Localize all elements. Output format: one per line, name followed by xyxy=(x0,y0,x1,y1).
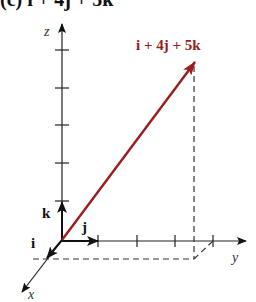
vector-arrow xyxy=(62,62,195,240)
unit-label-j: j xyxy=(81,219,87,235)
y-axis-label: y xyxy=(230,250,239,265)
x-axis-label: x xyxy=(27,287,35,302)
unit-label-k: k xyxy=(42,205,51,221)
unit-label-i: i xyxy=(31,235,35,251)
z-axis-label: z xyxy=(43,24,50,39)
unit-vector-i xyxy=(47,240,62,258)
vector-label: i + 4j + 5k xyxy=(136,37,201,53)
vector-diagram: z y x k j i i + 4j + 5k xyxy=(0,0,256,302)
